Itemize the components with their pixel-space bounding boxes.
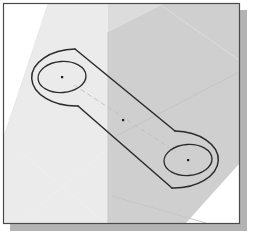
left-hole-centermark <box>61 76 63 78</box>
drawing-canvas <box>0 0 264 233</box>
right-hole-centermark <box>187 159 189 161</box>
frame-contents <box>4 4 239 223</box>
isometric-slotted-link-figure <box>0 0 264 233</box>
midpoint-centermark <box>122 119 124 121</box>
